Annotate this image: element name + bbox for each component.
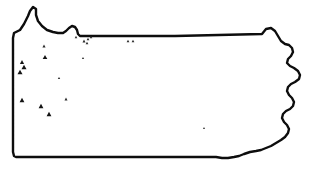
map-container: Pennsylvania bbox=[0, 0, 324, 179]
state-outline-pennsylvania bbox=[13, 7, 300, 158]
pennsylvania-map: Pennsylvania bbox=[0, 0, 324, 179]
state-border-group bbox=[13, 7, 300, 158]
